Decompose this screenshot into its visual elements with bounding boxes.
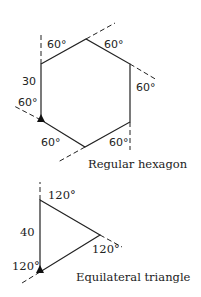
- hexagon-angle-6: 60°: [18, 96, 38, 109]
- hexagon-angle-2: 60°: [104, 38, 124, 51]
- diagram-canvas: 60° 60° 60° 60° 60° 60° 30 Regular hexag…: [0, 0, 201, 297]
- triangle-angle-1: 120°: [48, 188, 76, 202]
- triangle-side-label: 40: [20, 225, 35, 239]
- triangle-angle-2: 120°: [92, 242, 120, 256]
- triangle-angle-3: 120°: [12, 259, 40, 273]
- hexagon-angle-5: 60°: [41, 136, 61, 149]
- hexagon-angle-4: 60°: [109, 136, 129, 149]
- triangle-caption: Equilateral triangle: [76, 270, 191, 284]
- hexagon-angle-1: 60°: [47, 38, 67, 51]
- hexagon-side-label: 30: [22, 75, 36, 88]
- hexagon-angle-3: 60°: [136, 81, 156, 94]
- hexagon-caption: Regular hexagon: [88, 157, 188, 171]
